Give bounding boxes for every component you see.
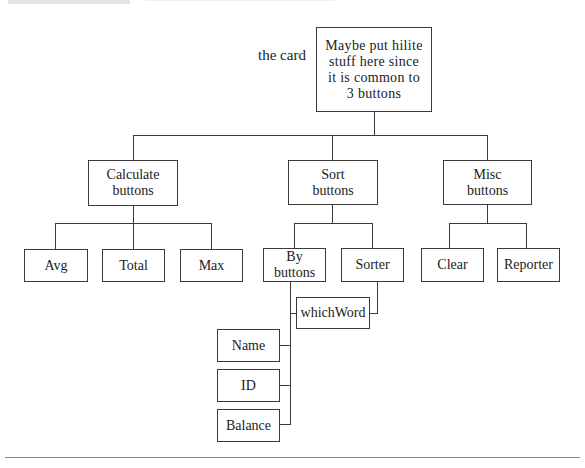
- connector: [279, 385, 290, 386]
- node-whichword: whichWord: [296, 297, 370, 329]
- node-label: buttons: [467, 183, 508, 199]
- connector: [377, 281, 378, 314]
- connector: [487, 204, 488, 223]
- node-label: Reporter: [504, 257, 553, 273]
- connector: [55, 223, 56, 249]
- node-label: Misc: [467, 167, 508, 183]
- node-card: Maybe put hilite stuff here since it is …: [316, 27, 432, 112]
- node-label: whichWord: [301, 305, 366, 321]
- node-label: buttons: [274, 265, 315, 281]
- node-sorter: Sorter: [341, 248, 404, 282]
- connector: [487, 135, 488, 160]
- node-label: Sort: [312, 167, 353, 183]
- card-line: it is common to: [325, 70, 422, 86]
- node-label: ID: [241, 378, 256, 394]
- connector: [133, 135, 488, 136]
- node-misc-buttons: Misc buttons: [443, 160, 532, 205]
- node-max: Max: [180, 249, 243, 282]
- node-clear: Clear: [421, 248, 484, 282]
- node-label: Total: [119, 258, 148, 274]
- node-label: Clear: [437, 257, 467, 273]
- connector: [449, 223, 450, 248]
- connector: [332, 135, 333, 160]
- page-edge-artifact: [145, 0, 335, 1]
- node-label: Name: [232, 338, 265, 354]
- node-label: Calculate: [107, 167, 160, 183]
- connector: [279, 424, 291, 425]
- node-id: ID: [217, 369, 280, 402]
- node-label: buttons: [107, 183, 160, 199]
- card-line: Maybe put hilite: [325, 38, 422, 54]
- connector: [294, 223, 295, 248]
- node-label: Max: [199, 258, 225, 274]
- horizontal-rule: [5, 457, 580, 458]
- node-label: buttons: [312, 183, 353, 199]
- node-calculate-buttons: Calculate buttons: [88, 160, 178, 206]
- connector: [133, 135, 134, 160]
- node-name: Name: [217, 329, 280, 362]
- node-label: Avg: [44, 258, 67, 274]
- connector: [526, 223, 527, 248]
- node-label: Balance: [226, 418, 271, 434]
- card-line: stuff here since: [325, 54, 422, 70]
- node-balance: Balance: [217, 409, 280, 442]
- node-avg: Avg: [24, 249, 88, 282]
- connector: [294, 223, 373, 224]
- node-reporter: Reporter: [497, 248, 560, 282]
- node-sort-buttons: Sort buttons: [288, 160, 378, 205]
- connector: [374, 111, 375, 135]
- connector: [279, 345, 290, 346]
- connector: [133, 205, 134, 223]
- connector: [290, 281, 291, 425]
- card-line: 3 buttons: [325, 86, 422, 102]
- connector: [332, 204, 333, 223]
- connector: [372, 223, 373, 248]
- connector: [211, 223, 212, 249]
- node-label: By: [274, 249, 315, 265]
- connector: [133, 223, 134, 249]
- node-by-buttons: By buttons: [263, 248, 326, 282]
- card-annotation: the card: [258, 46, 306, 64]
- node-total: Total: [102, 249, 165, 282]
- connector: [449, 223, 527, 224]
- node-label: Sorter: [355, 257, 389, 273]
- page-edge-artifact: [8, 0, 130, 4]
- connector: [369, 313, 378, 314]
